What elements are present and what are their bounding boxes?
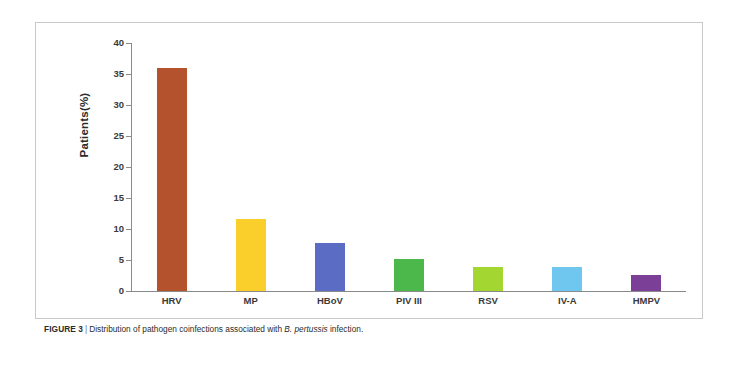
bar-chart: Patients(%) 4035302520151050 HRVMPHBoVPI… bbox=[36, 23, 702, 318]
y-axis-tick-label: 35 bbox=[98, 69, 124, 79]
x-axis-tick-label: PIV III bbox=[369, 295, 449, 306]
x-axis-tick-label: MP bbox=[211, 295, 291, 306]
y-axis-tick-mark bbox=[126, 105, 131, 106]
y-axis-tick-label: 0 bbox=[98, 286, 124, 296]
x-axis-tick-label: HBoV bbox=[290, 295, 370, 306]
y-axis-tick-label: 15 bbox=[98, 193, 124, 203]
y-axis-tick-mark bbox=[126, 74, 131, 75]
x-axis-tick-label: HRV bbox=[132, 295, 212, 306]
y-axis-tick-label: 10 bbox=[98, 224, 124, 234]
y-axis-tick-mark bbox=[126, 291, 131, 292]
caption-text-after-italic: infection. bbox=[328, 324, 364, 334]
y-axis-title: Patients(%) bbox=[78, 45, 90, 205]
y-axis-tick-label: 5 bbox=[98, 255, 124, 265]
y-axis-tick-label: 30 bbox=[98, 100, 124, 110]
caption-text-before-italic: Distribution of pathogen coinfections as… bbox=[89, 324, 284, 334]
y-axis-tick-label: 40 bbox=[98, 38, 124, 48]
x-axis-tick-labels: HRVMPHBoVPIV IIIRSVIV-AHMPV bbox=[132, 43, 686, 313]
y-axis-tick-mark bbox=[126, 229, 131, 230]
y-axis-tick-mark bbox=[126, 136, 131, 137]
figure-panel: Patients(%) 4035302520151050 HRVMPHBoVPI… bbox=[35, 22, 703, 319]
y-axis-tick-mark bbox=[126, 43, 131, 44]
caption-figure-number: FIGURE 3 bbox=[44, 324, 83, 334]
y-axis-tick-mark bbox=[126, 260, 131, 261]
y-axis-tick-mark bbox=[126, 167, 131, 168]
y-axis-tick-label: 25 bbox=[98, 131, 124, 141]
caption-italic-species-name: B. pertussis bbox=[284, 324, 327, 334]
x-axis-tick-label: HMPV bbox=[606, 295, 686, 306]
y-axis-tick-mark bbox=[126, 198, 131, 199]
y-axis-tick-labels: 4035302520151050 bbox=[96, 23, 124, 318]
figure-caption: FIGURE 3|Distribution of pathogen coinfe… bbox=[44, 324, 704, 335]
x-axis-tick-label: IV-A bbox=[527, 295, 607, 306]
y-axis-tick-label: 20 bbox=[98, 162, 124, 172]
x-axis-tick-label: RSV bbox=[448, 295, 528, 306]
